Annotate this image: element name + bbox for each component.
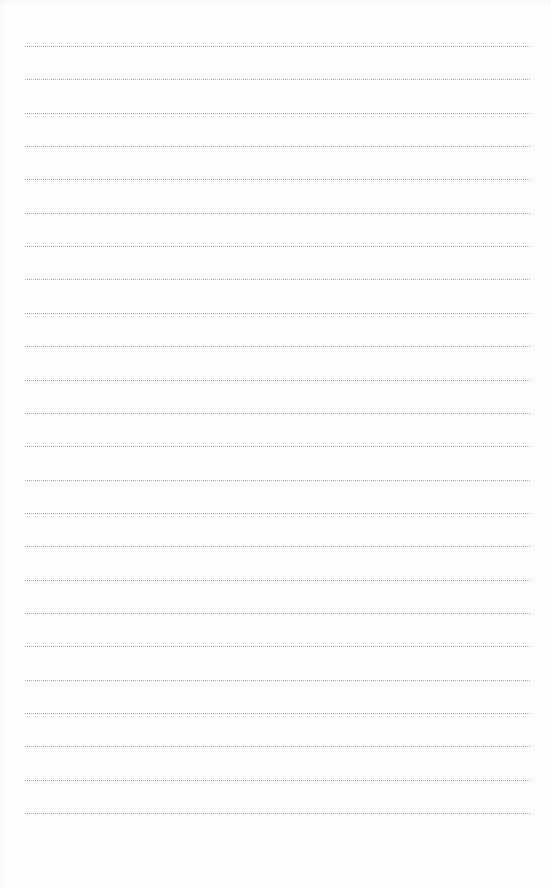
ruled-line xyxy=(25,546,530,547)
ruled-line xyxy=(25,813,530,814)
ruled-line xyxy=(25,646,530,647)
lined-paper-sheet xyxy=(0,0,551,888)
ruled-line xyxy=(25,380,530,381)
ruled-line xyxy=(25,279,530,280)
ruled-line xyxy=(25,780,530,781)
ruled-line xyxy=(25,113,530,114)
top-edge-bleed xyxy=(0,0,551,10)
ruled-line xyxy=(25,213,530,214)
ruled-line xyxy=(25,680,530,681)
ruled-line xyxy=(25,713,530,714)
left-edge-shadow xyxy=(0,0,6,888)
ruled-line xyxy=(25,179,530,180)
ruled-line xyxy=(25,146,530,147)
ruled-line xyxy=(25,313,530,314)
ruled-line xyxy=(25,613,530,614)
ruled-line xyxy=(25,746,530,747)
ruled-line xyxy=(25,580,530,581)
ruled-line xyxy=(25,46,530,47)
ruled-line xyxy=(25,446,530,447)
ruled-line xyxy=(25,79,530,80)
ruled-line xyxy=(25,480,530,481)
ruled-line xyxy=(25,246,530,247)
ruled-line xyxy=(25,346,530,347)
ruled-line xyxy=(25,413,530,414)
ruled-line xyxy=(25,513,530,514)
